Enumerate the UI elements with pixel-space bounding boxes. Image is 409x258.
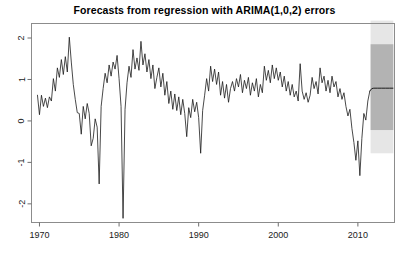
x-tick-label: 1980 bbox=[109, 230, 129, 240]
chart-canvas: 19701980199020002010 -2-1012 bbox=[0, 0, 409, 258]
x-tick-label: 1970 bbox=[29, 230, 49, 240]
y-axis: -2-1012 bbox=[17, 36, 32, 208]
plot-frame bbox=[32, 24, 395, 223]
x-tick-label: 1990 bbox=[189, 230, 209, 240]
x-tick-label: 2000 bbox=[268, 230, 288, 240]
y-tick-label: 1 bbox=[17, 77, 27, 82]
y-tick-label: 0 bbox=[17, 118, 27, 123]
y-tick-label: -2 bbox=[17, 200, 27, 208]
y-tick-label: -1 bbox=[17, 158, 27, 166]
y-tick-label: 2 bbox=[17, 36, 27, 41]
prediction-interval-bands bbox=[371, 21, 394, 154]
historical-series-line bbox=[37, 37, 369, 218]
x-tick-label: 2010 bbox=[348, 230, 368, 240]
x-axis: 19701980199020002010 bbox=[29, 223, 367, 240]
forecast-chart: Forecasts from regression with ARIMA(1,0… bbox=[0, 0, 409, 258]
prediction-interval-80-band bbox=[371, 44, 394, 130]
